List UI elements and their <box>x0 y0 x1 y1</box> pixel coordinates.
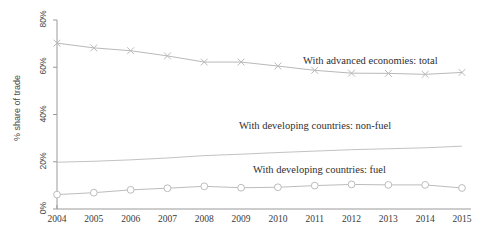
x-tick-label: 2015 <box>439 214 485 224</box>
series-label-2: With developing countries: fuel <box>253 164 386 175</box>
line-chart: % share of trade 0%20%40%60%80%200420052… <box>0 0 487 245</box>
y-tick-label: 20% <box>38 141 48 181</box>
y-tick-label: 60% <box>38 46 48 86</box>
series-label-1: With developing countries: non-fuel <box>239 120 391 131</box>
series-label-0: With advanced economies: total <box>303 55 438 66</box>
series-line-2 <box>57 184 462 194</box>
series-line-1 <box>57 146 462 162</box>
y-tick-label: 80% <box>38 0 48 39</box>
y-tick-label: 40% <box>38 94 48 134</box>
